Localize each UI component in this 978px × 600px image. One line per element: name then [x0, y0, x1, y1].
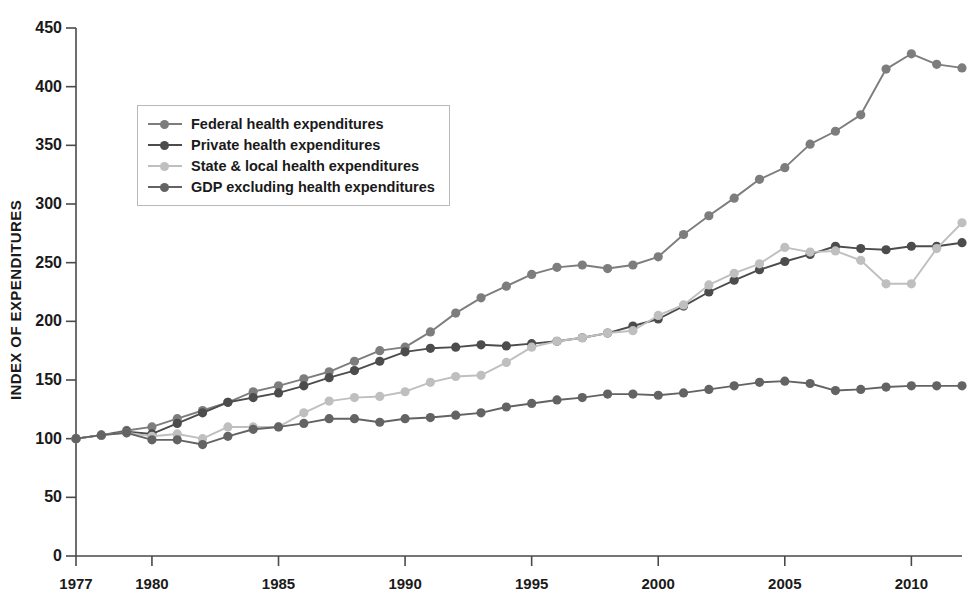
series-marker: [603, 389, 612, 398]
y-axis-tick-label: 0: [18, 547, 62, 565]
series-marker: [704, 385, 713, 394]
series-marker: [451, 309, 460, 318]
legend-item-label: Federal health expenditures: [191, 116, 384, 132]
y-axis-tick-label: 100: [18, 430, 62, 448]
series-marker: [578, 333, 587, 342]
series-marker: [957, 63, 966, 72]
series-marker: [198, 408, 207, 417]
series-marker: [932, 381, 941, 390]
series-marker: [173, 419, 182, 428]
series-marker: [451, 343, 460, 352]
series-marker: [451, 411, 460, 420]
x-axis-tick-label: 1977: [46, 575, 106, 592]
series-marker: [679, 388, 688, 397]
series-marker: [578, 393, 587, 402]
series-marker: [907, 242, 916, 251]
series-marker: [173, 435, 182, 444]
series-marker: [527, 399, 536, 408]
series-line: [76, 223, 962, 439]
series-marker: [831, 127, 840, 136]
series-marker: [654, 391, 663, 400]
series-marker: [400, 347, 409, 356]
series-marker: [603, 264, 612, 273]
series-marker: [426, 378, 435, 387]
series-marker: [552, 337, 561, 346]
series-marker: [476, 340, 485, 349]
series-marker: [325, 373, 334, 382]
series-marker: [502, 282, 511, 291]
series-marker: [780, 163, 789, 172]
legend-item[interactable]: Private health expenditures: [148, 134, 435, 155]
series-marker: [856, 110, 865, 119]
series-marker: [375, 418, 384, 427]
series-marker: [628, 389, 637, 398]
series-marker: [780, 257, 789, 266]
series-marker: [476, 408, 485, 417]
series-marker: [299, 419, 308, 428]
series-marker: [325, 397, 334, 406]
series-marker: [375, 357, 384, 366]
plot-area: [0, 0, 978, 600]
series-marker: [881, 64, 890, 73]
series-marker: [704, 280, 713, 289]
series-marker: [755, 378, 764, 387]
series-marker: [806, 379, 815, 388]
series-marker: [451, 372, 460, 381]
series-marker: [350, 366, 359, 375]
series-marker: [628, 260, 637, 269]
series-marker: [426, 327, 435, 336]
legend-item[interactable]: GDP excluding health expenditures: [148, 176, 435, 197]
x-axis-tick-label: 2000: [628, 575, 688, 592]
series-marker: [274, 422, 283, 431]
series-marker: [223, 432, 232, 441]
series-marker: [654, 311, 663, 320]
series-marker: [249, 393, 258, 402]
series-marker: [299, 381, 308, 390]
series-marker: [350, 414, 359, 423]
x-axis-tick-label: 1980: [122, 575, 182, 592]
series-marker: [831, 386, 840, 395]
legend-marker-icon: [148, 117, 182, 131]
series-marker: [806, 140, 815, 149]
series-marker: [730, 194, 739, 203]
series-marker: [426, 413, 435, 422]
series-marker: [856, 256, 865, 265]
series-marker: [122, 428, 131, 437]
series-marker: [426, 344, 435, 353]
series-marker: [654, 252, 663, 261]
series-marker: [957, 238, 966, 247]
series-marker: [299, 408, 308, 417]
series-marker: [856, 244, 865, 253]
series-marker: [831, 246, 840, 255]
x-axis-tick-label: 1995: [502, 575, 562, 592]
series-marker: [97, 431, 106, 440]
legend-item[interactable]: Federal health expenditures: [148, 113, 435, 134]
series-marker: [628, 326, 637, 335]
series-marker: [527, 270, 536, 279]
series-marker: [679, 230, 688, 239]
series-marker: [375, 392, 384, 401]
series-marker: [957, 218, 966, 227]
series-marker: [527, 343, 536, 352]
series-marker: [578, 260, 587, 269]
legend-item-label: GDP excluding health expenditures: [191, 179, 435, 195]
x-axis-tick-label: 1985: [249, 575, 309, 592]
legend-item-label: Private health expenditures: [191, 137, 380, 153]
series-marker: [400, 414, 409, 423]
series-marker: [603, 328, 612, 337]
series-marker: [730, 381, 739, 390]
x-axis-tick-label: 2010: [881, 575, 941, 592]
legend-item[interactable]: State & local health expenditures: [148, 155, 435, 176]
series-marker: [780, 377, 789, 386]
legend-item-label: State & local health expenditures: [191, 158, 419, 174]
series-marker: [223, 398, 232, 407]
series-marker: [375, 346, 384, 355]
series-marker: [755, 259, 764, 268]
y-axis-tick-label: 50: [18, 488, 62, 506]
series-marker: [856, 385, 865, 394]
series-marker: [198, 440, 207, 449]
series-marker: [780, 243, 789, 252]
legend-marker-icon: [148, 138, 182, 152]
series-marker: [223, 422, 232, 431]
data-series: [71, 238, 966, 443]
